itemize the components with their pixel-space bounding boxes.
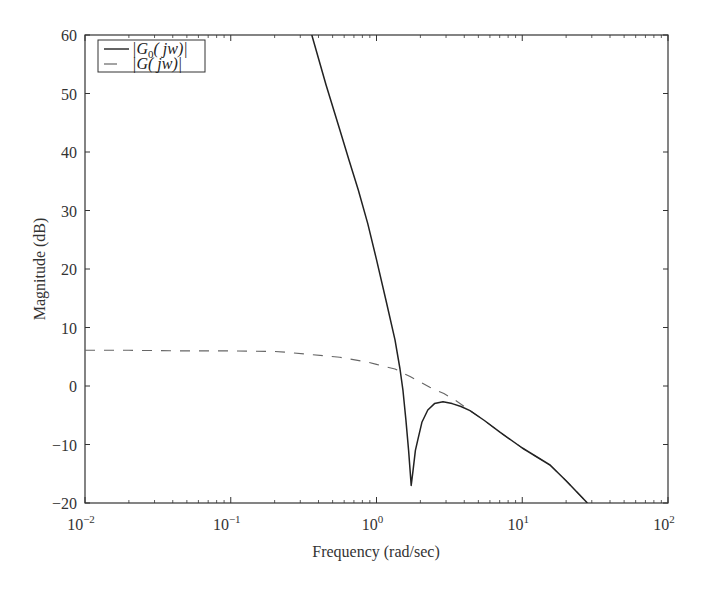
plot-border [85,35,668,503]
y-axis-label: Magnitude (dB) [31,218,49,321]
y-tick-label: 10 [61,320,77,337]
bode-magnitude-chart: 6050403020100−10−20 10−210−1100101102 |G… [0,0,708,589]
cut-off-caption [0,582,708,589]
plot-area [85,35,668,503]
x-tick-label: 10−1 [213,513,241,533]
x-tick-label: 10−2 [67,513,95,533]
x-tick-label: 100 [362,513,384,533]
y-tick-label: 30 [61,203,77,220]
legend-entry-g: |G( jw)| [132,55,182,73]
legend: |G0( jw)| |G( jw)| [98,40,205,73]
y-tick-label: 40 [61,144,77,161]
y-tick-label: 50 [61,86,77,103]
x-axis-label: Frequency (rad/sec) [312,543,440,561]
x-tick-label: 102 [653,513,675,533]
x-tick-label: 101 [508,513,530,533]
y-tick-label: −10 [52,437,77,454]
y-tick-label: 20 [61,261,77,278]
y-tick-label: 60 [61,27,77,44]
y-tick-label: 0 [69,378,77,395]
y-tick-label: −20 [52,495,77,512]
